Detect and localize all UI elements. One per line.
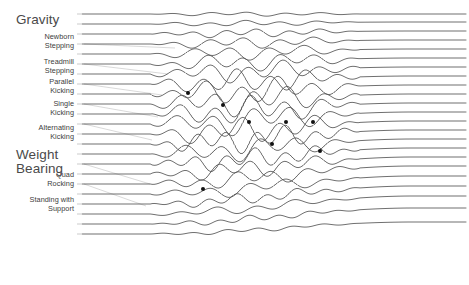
stream-line bbox=[82, 69, 466, 92]
event-marker-dot[interactable] bbox=[284, 120, 288, 124]
event-marker-dot[interactable] bbox=[186, 91, 190, 95]
stream-line bbox=[82, 186, 466, 207]
streamgraph-chart: GravityNewbornSteppingTreadmillSteppingP… bbox=[0, 0, 469, 285]
series-label-line: Kicking bbox=[39, 133, 74, 142]
stream-line bbox=[82, 29, 466, 38]
stream-line bbox=[82, 208, 466, 225]
group-header-line: Gravity bbox=[16, 13, 59, 27]
series-label-line: Stepping bbox=[44, 67, 74, 76]
label-leader-line bbox=[84, 184, 146, 206]
stream-line bbox=[82, 20, 466, 25]
series-label-line: Stepping bbox=[44, 42, 74, 51]
stream-line bbox=[82, 196, 466, 215]
label-leader-line bbox=[84, 84, 162, 95]
label-leader-lines bbox=[84, 44, 175, 206]
group-header-gravity: Gravity bbox=[16, 13, 59, 27]
group-header-line: Weight bbox=[16, 148, 63, 162]
series-label[interactable]: TreadmillStepping bbox=[44, 58, 74, 75]
stream-line bbox=[82, 76, 466, 103]
event-marker-dot[interactable] bbox=[247, 120, 251, 124]
series-label[interactable]: SingleKicking bbox=[50, 100, 74, 117]
series-label[interactable]: AlternatingKicking bbox=[39, 124, 74, 141]
event-marker-dot[interactable] bbox=[318, 149, 322, 153]
series-label-line: Kicking bbox=[49, 87, 74, 96]
event-marker-dot[interactable] bbox=[311, 120, 315, 124]
stream-line-group bbox=[82, 12, 466, 234]
event-marker-dot[interactable] bbox=[221, 103, 225, 107]
stream-line bbox=[82, 12, 466, 16]
event-marker-dot[interactable] bbox=[270, 142, 274, 146]
series-label-line: Support bbox=[30, 205, 74, 214]
series-label-line: Rocking bbox=[47, 180, 74, 189]
series-label-line: Kicking bbox=[50, 109, 74, 118]
series-label-column: GravityNewbornSteppingTreadmillSteppingP… bbox=[0, 0, 80, 285]
label-leader-line bbox=[84, 124, 152, 140]
label-leader-line bbox=[84, 104, 158, 117]
series-label[interactable]: NewbornStepping bbox=[44, 33, 74, 50]
series-label[interactable]: QuadRocking bbox=[47, 171, 74, 188]
stream-line bbox=[82, 156, 466, 180]
series-label[interactable]: ParallelKicking bbox=[49, 78, 74, 95]
stream-line bbox=[82, 138, 466, 162]
stream-line bbox=[82, 95, 466, 122]
stream-line bbox=[82, 166, 466, 188]
series-label[interactable]: Standing withSupport bbox=[30, 196, 74, 213]
stream-line bbox=[82, 176, 466, 197]
event-marker-dot[interactable] bbox=[201, 187, 205, 191]
